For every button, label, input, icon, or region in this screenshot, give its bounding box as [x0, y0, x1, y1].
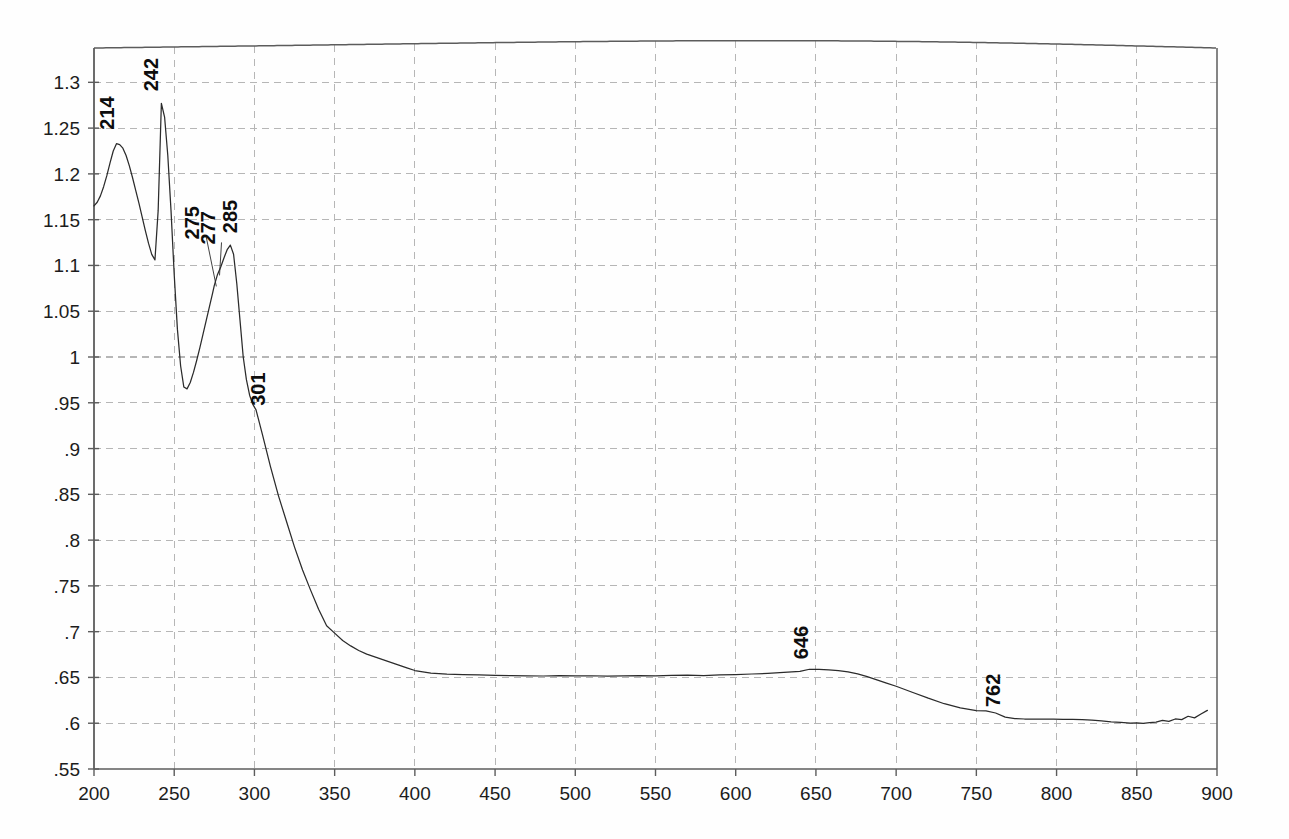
y-tick-label: .55	[54, 759, 80, 780]
y-tick-label: 1.2	[54, 164, 80, 185]
y-tick-label: 1.25	[43, 118, 80, 139]
peak-label: 285	[219, 200, 241, 233]
x-tick-label: 800	[1041, 783, 1073, 804]
y-tick-label: 1.15	[43, 210, 80, 231]
peak-label: 301	[247, 372, 269, 405]
y-tick-label: .8	[64, 530, 80, 551]
x-tick-label: 650	[800, 783, 832, 804]
y-tick-label: .65	[54, 667, 80, 688]
y-tick-label: 1.1	[54, 255, 80, 276]
x-tick-label: 500	[559, 783, 591, 804]
spectrum-chart-figure: 2002503003504004505005506006507007508008…	[0, 0, 1289, 839]
peak-label: 242	[140, 58, 162, 91]
x-tick-label: 250	[158, 783, 190, 804]
figure-background	[0, 0, 1289, 839]
x-axis-tick-labels: 2002503003504004505005506006507007508008…	[78, 783, 1233, 804]
x-tick-label: 900	[1201, 783, 1233, 804]
y-tick-label: .9	[64, 439, 80, 460]
x-tick-label: 600	[720, 783, 752, 804]
x-tick-label: 700	[880, 783, 912, 804]
x-tick-label: 550	[640, 783, 672, 804]
x-tick-label: 400	[399, 783, 431, 804]
x-tick-label: 450	[479, 783, 511, 804]
x-tick-label: 300	[239, 783, 271, 804]
peak-label: 762	[982, 674, 1004, 707]
y-tick-label: .6	[64, 713, 80, 734]
x-tick-label: 200	[78, 783, 110, 804]
y-tick-label: .95	[54, 393, 80, 414]
y-tick-label: .85	[54, 484, 80, 505]
y-tick-label: 1.3	[54, 72, 80, 93]
x-tick-label: 850	[1121, 783, 1153, 804]
peak-label: 277	[197, 211, 219, 244]
x-tick-label: 750	[961, 783, 993, 804]
y-tick-label: .75	[54, 576, 80, 597]
y-tick-label: 1	[69, 347, 80, 368]
x-tick-label: 350	[319, 783, 351, 804]
y-tick-label: .7	[64, 622, 80, 643]
y-tick-label: 1.05	[43, 301, 80, 322]
peak-label: 214	[96, 95, 118, 129]
spectrum-plot: 2002503003504004505005506006507007508008…	[0, 0, 1289, 839]
peak-label: 646	[790, 626, 812, 659]
